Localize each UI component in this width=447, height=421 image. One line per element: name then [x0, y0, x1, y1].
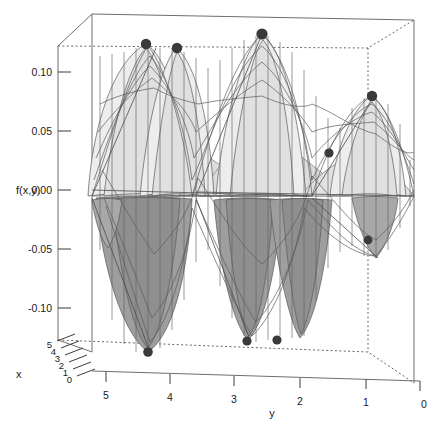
- marker-valley-4: [364, 236, 373, 245]
- marker-valley-1: [143, 347, 153, 357]
- marker-peak-3: [256, 28, 267, 39]
- marker-valley-3: [272, 335, 281, 344]
- z-tick-label-0: 0.10: [32, 66, 53, 78]
- marker-peak-1: [141, 39, 151, 49]
- y-axis-title: y: [269, 407, 275, 419]
- marker-saddle-1: [324, 148, 333, 157]
- surface-plot-figure: 0.10 0.05 0.00 -0.05 -0.10 f(x,y) 5 4 3 …: [0, 0, 447, 421]
- marker-peak-4: [367, 91, 377, 101]
- plot-canvas: 0.10 0.05 0.00 -0.05 -0.10 f(x,y) 5 4 3 …: [0, 0, 447, 421]
- marker-valley-2: [242, 336, 251, 345]
- z-tick-label-4: -0.10: [28, 302, 52, 314]
- y-tick-label-0: 5: [103, 389, 109, 401]
- z-tick-label-1: 0.05: [32, 125, 53, 137]
- z-tick-label-3: -0.05: [28, 243, 52, 255]
- y-tick-label-3: 2: [297, 395, 303, 407]
- marker-peak-2: [172, 43, 182, 53]
- x-tick-label-5: 0: [67, 374, 72, 385]
- x-axis-title: x: [16, 368, 22, 380]
- y-tick-label-4: 1: [363, 396, 369, 408]
- y-tick-label-1: 4: [167, 391, 173, 403]
- y-tick-label-2: 3: [231, 393, 237, 405]
- y-tick-label-5: 0: [421, 398, 427, 410]
- z-axis-title: f(x,y): [16, 184, 40, 196]
